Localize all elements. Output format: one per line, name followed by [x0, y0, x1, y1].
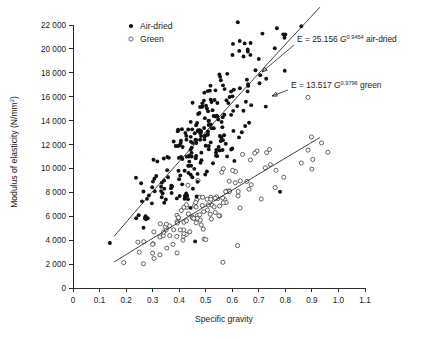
data-point-green	[221, 201, 225, 205]
data-point-air-dried	[221, 115, 225, 119]
data-point-green	[259, 197, 263, 201]
data-point-air-dried	[192, 167, 196, 171]
y-tick-label: 4 000	[46, 236, 67, 245]
data-point-air-dried	[187, 171, 191, 175]
data-point-green	[319, 141, 323, 145]
data-point-green	[152, 230, 156, 234]
data-point-green	[186, 183, 190, 187]
data-point-air-dried	[273, 46, 277, 50]
data-point-green	[201, 227, 205, 231]
data-point-air-dried	[193, 239, 197, 243]
data-point-air-dried	[144, 217, 148, 221]
data-point-green	[171, 242, 175, 246]
data-point-green	[247, 187, 251, 191]
data-point-green	[221, 167, 225, 171]
x-tick-label: 0.1	[94, 296, 106, 305]
data-point-air-dried	[235, 104, 239, 108]
y-tick-label: 22 000	[41, 21, 66, 30]
fit-lines	[114, 7, 320, 262]
data-point-green	[165, 246, 169, 250]
x-tick-label: 1.0	[333, 296, 345, 305]
data-point-air-dried	[177, 169, 181, 173]
data-point-green	[181, 238, 185, 242]
x-tick-label: 1.1	[359, 296, 371, 305]
data-point-green	[205, 208, 209, 212]
data-point-green	[158, 253, 162, 257]
data-point-air-dried	[214, 88, 218, 92]
data-point-air-dried	[142, 226, 146, 230]
data-point-air-dried	[243, 41, 247, 45]
data-point-air-dried	[165, 155, 169, 159]
data-point-green	[311, 157, 315, 161]
data-point-green	[176, 216, 180, 220]
y-tick-label: 2 000	[46, 260, 67, 269]
x-tick-label: 0.5	[200, 296, 212, 305]
data-point-air-dried	[190, 127, 194, 131]
data-point-air-dried	[248, 53, 252, 57]
x-tick-label: 0.9	[306, 296, 318, 305]
data-point-air-dried	[185, 138, 189, 142]
data-point-air-dried	[246, 48, 250, 52]
data-point-air-dried	[200, 101, 204, 105]
data-point-air-dried	[196, 128, 200, 132]
data-point-green	[194, 221, 198, 225]
air-dried-fit-annotation-exponent: 0.9454	[347, 34, 364, 40]
data-point-green	[267, 147, 271, 151]
data-point-air-dried	[160, 195, 164, 199]
data-point-green	[151, 251, 155, 255]
data-point-air-dried	[165, 168, 169, 172]
data-point-air-dried	[243, 124, 247, 128]
data-point-air-dried	[275, 26, 279, 30]
data-point-air-dried	[186, 164, 190, 168]
data-point-green	[306, 95, 310, 99]
data-point-air-dried	[231, 94, 235, 98]
data-point-air-dried	[197, 111, 201, 115]
data-point-green	[212, 205, 216, 209]
y-tick-label: 16 000	[41, 93, 66, 102]
data-point-air-dried	[189, 120, 193, 124]
data-point-air-dried	[170, 191, 174, 195]
data-point-green	[152, 256, 156, 260]
data-point-air-dried	[154, 174, 158, 178]
x-tick-label: 0	[71, 296, 76, 305]
data-point-green	[172, 228, 176, 232]
data-point-air-dried	[221, 148, 225, 152]
data-point-green	[209, 217, 213, 221]
scatter-plot-figure: 02 0004 0006 0008 00010 00012 00014 0001…	[0, 0, 438, 339]
data-point-green	[122, 261, 126, 265]
data-point-air-dried	[226, 101, 230, 105]
data-point-green	[209, 197, 213, 201]
data-point-air-dried	[186, 197, 190, 201]
data-point-air-dried	[174, 144, 178, 148]
data-point-air-dried	[152, 158, 156, 162]
y-axis-title-close: )	[9, 96, 19, 99]
data-point-air-dried	[225, 72, 229, 76]
green-fit-annotation-arrowhead	[272, 92, 277, 96]
data-point-air-dried	[283, 33, 287, 37]
y-tick-label: 20 000	[41, 45, 66, 54]
data-point-air-dried	[183, 169, 187, 173]
data-point-air-dried	[142, 190, 146, 194]
data-point-green	[168, 234, 172, 238]
data-point-air-dried	[134, 176, 138, 180]
data-point-green	[217, 214, 221, 218]
y-axis-title: Modulus of elasticity (N/mm2)	[9, 96, 19, 208]
data-point-air-dried	[196, 172, 200, 176]
y-tick-label: 10 000	[41, 164, 66, 173]
data-point-green	[201, 195, 205, 199]
data-point-air-dried	[242, 55, 246, 59]
data-point-air-dried	[219, 139, 223, 143]
data-point-air-dried	[264, 77, 268, 81]
data-point-green	[282, 175, 286, 179]
data-point-green	[151, 242, 155, 246]
data-point-air-dried	[191, 187, 195, 191]
data-point-air-dried	[180, 182, 184, 186]
data-point-green	[208, 212, 212, 216]
y-tick-label: 0	[61, 284, 66, 293]
data-point-green	[188, 230, 192, 234]
data-point-air-dried	[231, 42, 235, 46]
data-point-green	[204, 238, 208, 242]
data-point-air-dried	[238, 86, 242, 90]
x-tick-label: 0.8	[280, 296, 292, 305]
data-point-green	[175, 234, 179, 238]
